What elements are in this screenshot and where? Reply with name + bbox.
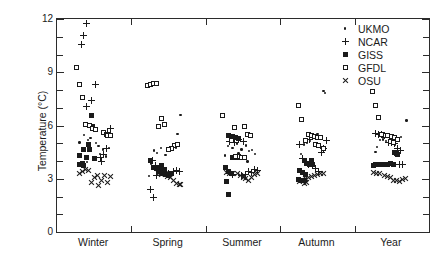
data-point-ukmo [105,155,107,157]
data-point-ncar [378,131,385,138]
data-point-giss [388,161,393,166]
data-point-ukmo [382,138,384,140]
y-axis-tick-label: 9 [47,67,53,77]
legend-item-osu: OSU [338,74,422,87]
data-point-ukmo [236,142,238,144]
y-axis-tick-right [423,197,429,198]
data-point-ukmo [315,135,317,137]
data-point-osu [303,179,310,186]
data-point-giss [226,133,231,138]
data-point-ncar [153,172,160,179]
data-point-ncar [245,168,252,175]
data-point-gfdl [385,133,390,138]
data-point-osu [308,173,315,180]
y-axis-tick-right [422,179,429,180]
data-point-ukmo [324,92,326,94]
data-point-ncar [238,172,245,179]
data-point-ncar [375,131,382,138]
data-point-giss [373,162,378,167]
data-point-osu [376,170,383,177]
data-point-gfdl [74,65,79,70]
data-point-giss [156,169,161,174]
data-point-ukmo [83,134,85,136]
data-point-osu [107,173,114,180]
data-point-giss [303,172,308,177]
data-point-ncar [162,170,169,177]
x-axis-category-label: Spring [152,236,182,248]
data-point-osu [251,171,258,178]
data-point-osu [226,170,233,177]
data-point-giss [382,162,387,167]
data-point-ukmo [227,145,229,147]
data-point-gfdl [245,132,250,137]
data-point-ukmo [245,144,247,146]
data-point-osu [177,181,184,188]
y-axis-tick [57,72,64,73]
data-point-giss [392,150,397,155]
data-point-gfdl [312,134,317,139]
data-point-osu [296,178,303,185]
data-point-gfdl [313,142,318,147]
data-point-gfdl [389,134,394,139]
data-point-ncar [315,168,322,175]
data-point-osu [254,170,261,177]
data-point-osu [85,167,92,174]
data-point-ukmo [231,147,233,149]
data-point-ncar [107,125,114,132]
data-point-gfdl [175,142,180,147]
data-point-giss [81,147,86,152]
x-axis-tick [355,226,356,232]
data-point-giss [297,168,302,173]
data-point-gfdl [296,103,301,108]
data-point-giss [226,169,231,174]
data-point-ncar [320,145,327,152]
legend-marker-filled-square-icon [338,48,352,61]
y-axis-tick [57,126,64,127]
data-point-ukmo [251,149,253,151]
data-point-ukmo [318,135,320,137]
data-point-osu [393,177,400,184]
y-axis-tick-label: 0 [47,227,53,237]
data-point-osu [240,174,247,181]
y-axis-tick-right [422,19,429,20]
data-point-ukmo [175,147,177,149]
data-point-ukmo [376,146,378,148]
data-point-giss [307,162,312,167]
data-point-ncar [323,137,330,144]
data-point-osu [94,172,101,179]
data-point-osu [399,176,406,183]
data-point-ncar [92,81,99,88]
data-point-giss [154,166,159,171]
y-axis-tick [57,214,63,215]
data-point-giss [84,155,89,160]
data-point-ncar [296,141,303,148]
data-point-giss [81,163,86,168]
data-point-giss [226,192,231,197]
data-point-ukmo [246,160,248,162]
data-point-gfdl [303,138,308,143]
data-point-giss [77,162,82,167]
data-point-ncar [152,162,159,169]
data-point-ukmo [148,175,150,177]
data-point-osu [76,170,83,177]
data-point-ukmo [97,145,99,147]
data-point-ukmo [224,154,226,156]
data-point-gfdl [87,123,92,128]
data-point-ncar [88,97,95,104]
legend-item-giss: GISS [338,48,422,61]
x-axis-tick-top [131,19,132,25]
data-point-ncar [156,165,163,172]
y-axis-tick [57,90,63,91]
legend-marker-plus-icon [338,35,352,48]
data-point-ukmo [300,153,302,155]
data-point-gfdl [101,130,106,135]
y-axis-title: Temperature (°C) [36,91,48,172]
data-point-osu [237,172,244,179]
data-point-osu [305,174,312,181]
data-point-ncar [159,168,166,175]
data-point-giss [86,142,91,147]
data-point-giss [296,177,301,182]
data-point-ncar [147,186,154,193]
y-axis-tick [57,19,64,20]
data-point-ncar [226,138,233,145]
